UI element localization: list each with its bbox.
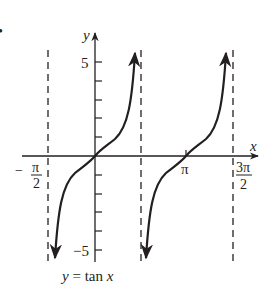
x-axis-label: x <box>249 138 257 154</box>
x-tick-label-neg-pi-half-num: π <box>32 160 39 175</box>
graph-caption: y = tan x <box>60 268 114 284</box>
x-tick-label-neg-pi-half-den: 2 <box>33 176 40 191</box>
x-tick-label-neg-pi-half-sign: − <box>15 163 23 178</box>
y-tick-label-neg5: −5 <box>73 243 89 259</box>
y-axis-label: y <box>81 27 90 43</box>
y-tick-label-5: 5 <box>81 55 89 71</box>
x-tick-label-three-pi-half-den: 2 <box>240 177 247 192</box>
x-tick-label-pi: π <box>181 161 189 177</box>
tangent-graph: • y x 5 −5 − π 2 π 3π 2 y = tan x <box>0 0 274 305</box>
bullet-dot: • <box>0 24 3 39</box>
x-tick-label-three-pi-half-num: 3π <box>236 160 250 175</box>
